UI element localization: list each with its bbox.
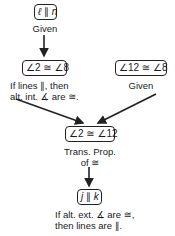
reason-transitive-property: Trans. Prop. of ≅ [60,146,120,168]
line-k-symbol: k [94,191,99,202]
statement-box-angle12-congruent-angle8: ∠12 ≅ ∠8 [115,60,167,76]
reason-line-1: If lines ∥, then [10,80,79,91]
statement-box-j-parallel-k: j ∥ k [77,189,102,205]
statement-box-angle2-congruent-angle12: ∠2 ≅ ∠12 [65,126,115,142]
reason-given-1: Given [25,23,65,34]
statement-box-l-parallel-n: ℓ ∥ n [34,4,57,20]
reason-line-2: of ≅ [60,157,120,168]
reason-line-2: alt. int. ∡ are ≅. [10,91,79,102]
reason-line-2: then lines are ∥. [55,220,134,231]
parallel-symbol: ∥ [41,6,52,17]
line-n-symbol: n [52,6,58,17]
statement-box-angle2-congruent-angle8: ∠2 ≅ ∠8 [22,60,67,76]
parallel-symbol: ∥ [83,191,94,202]
arrow-n3-to-n4 [98,94,156,123]
reason-given-2: Given [121,80,161,91]
reason-line-1: Trans. Prop. [60,146,120,157]
reason-line-1: If alt. ext. ∡ are ≅, [55,209,134,220]
reason-alt-ext-angles: If alt. ext. ∡ are ≅, then lines are ∥. [55,209,134,231]
arrow-n2-to-n4 [16,99,83,123]
reason-alt-int-angles: If lines ∥, then alt. int. ∡ are ≅. [10,80,79,102]
